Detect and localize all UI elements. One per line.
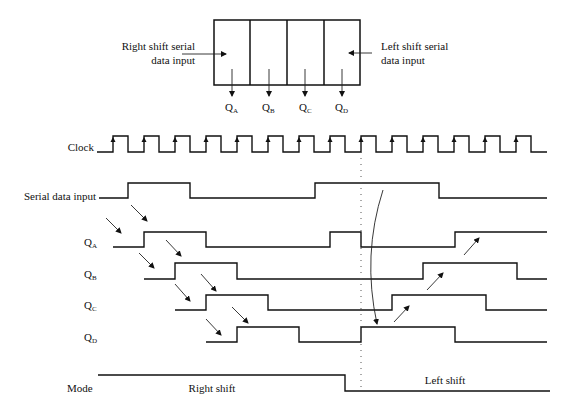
curved-feedback-arrow-icon [371,190,383,324]
causal-arrow-icon [201,274,216,291]
qb-waveform [144,263,547,279]
causal-arrow-icon [427,273,443,290]
left-shift-arrows [371,190,479,324]
register-block: Right shift serial data input Left shift… [122,20,449,115]
clock-label: Clock [68,141,95,153]
register-output-qb: QB [262,101,275,115]
causal-arrow-icon [139,253,154,268]
causal-arrow-icon [464,238,479,255]
serial-input-label: Serial data input [24,190,96,202]
register-output-qa: QA [225,101,238,115]
causal-arrow-icon [175,284,190,301]
qd-label: QD [84,331,97,345]
causal-arrow-icon [232,307,248,323]
qd-waveform [206,327,547,342]
left-shift-label: Left shift [425,374,466,386]
mode-waveform [98,375,550,391]
right-shift-label: Right shift [189,382,236,394]
serial-input-waveform [99,183,547,198]
qc-label: QC [84,299,97,313]
qa-label: QA [84,236,97,250]
clock-waveform [97,136,547,152]
causal-arrow-icon [394,306,409,322]
causal-arrow-icon [131,205,147,221]
left-input-label-line1: Left shift serial [381,40,448,52]
mode-label: Mode [67,382,93,394]
causal-arrow-icon [106,218,121,233]
right-input-label-line2: data input [151,54,195,66]
qb-label: QB [84,268,97,282]
right-input-label-line1: Right shift serial [122,40,195,52]
causal-arrow-icon [166,240,181,256]
qa-waveform [113,232,547,247]
register-output-qc: QC [299,101,312,115]
shift-register-timing-diagram: Right shift serial data input Left shift… [0,0,570,411]
left-input-label-line2: data input [381,54,425,66]
causal-arrow-icon [206,319,221,335]
right-shift-arrows [106,205,248,335]
register-output-qd: QD [335,101,348,115]
